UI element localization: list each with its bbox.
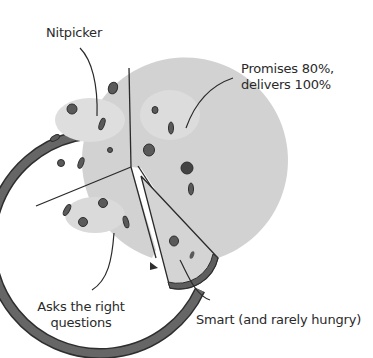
label-asks-line1: Asks the right [36,300,126,315]
label-asks-line2: questions [36,316,126,331]
label-smart: Smart (and rarely hungry) [196,313,361,328]
label-promises-line1: Promises 80%, [241,62,334,77]
label-nitpicker: Nitpicker [46,26,102,41]
label-promises-line2: delivers 100% [241,78,331,93]
leader-asks [92,233,114,290]
